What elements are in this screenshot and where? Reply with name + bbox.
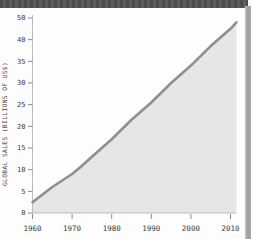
y-tick-label: 0 [21,209,25,217]
x-tick-label: 1990 [142,224,161,233]
y-tick-label: 50 [17,14,25,22]
y-tick-label: 5 [21,188,25,196]
x-tick-label: 1970 [63,224,82,233]
y-tick-label: 30 [17,79,25,87]
y-tick-label: 25 [17,101,25,109]
y-tick-label: 40 [17,36,25,44]
scanned-figure-page: 5040353025201510501960197019801990200020… [0,0,253,239]
y-tick-label: 20 [17,123,25,131]
x-tick-label: 1980 [103,224,122,233]
y-tick-label: 35 [17,58,25,66]
x-tick-label: 2000 [182,224,201,233]
y-axis-title: GLOBAL SALES (BILLIONS OF US$) [1,62,8,186]
area-chart: 5040353025201510501960197019801990200020… [0,0,253,239]
x-tick-label: 1960 [23,224,42,233]
x-tick-label: 2010 [221,224,240,233]
y-tick-label: 15 [17,144,25,152]
y-tick-label: 10 [17,166,25,174]
